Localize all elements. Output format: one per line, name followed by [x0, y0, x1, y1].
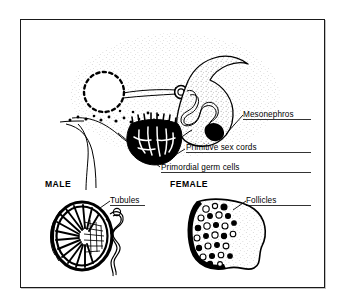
ovary-icon — [188, 199, 266, 270]
label-female: FEMALE — [170, 180, 208, 189]
figure-canvas — [0, 0, 340, 302]
label-primitive-sex-cords: Primitive sex cords — [186, 144, 257, 152]
label-tubules: Tubules — [110, 197, 140, 205]
figure-root: Mesonephros Primitive sex cords Primordi… — [0, 0, 340, 302]
hindgut-icon — [84, 72, 124, 112]
testis-icon — [51, 202, 113, 270]
label-follicles: Follicles — [246, 197, 276, 205]
label-primordial-germ-cells: Primordial germ cells — [161, 164, 240, 172]
label-male: MALE — [45, 180, 71, 189]
label-mesonephros: Mesonephros — [243, 111, 294, 119]
